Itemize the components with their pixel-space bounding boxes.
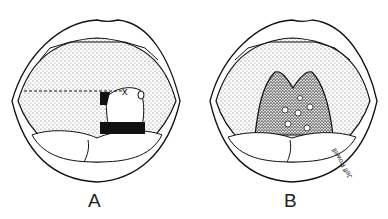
mouth-a: x xyxy=(12,20,180,182)
panel-label-a: A xyxy=(88,190,101,212)
marker-x: x xyxy=(122,85,128,97)
mouth-b xyxy=(210,20,377,182)
panel-label-b: B xyxy=(284,190,297,212)
illustration: x xyxy=(0,0,388,219)
